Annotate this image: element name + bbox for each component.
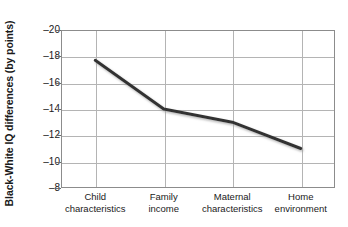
x-axis-category-label-line: environment bbox=[256, 203, 346, 215]
y-axis-tick-label: –10 bbox=[20, 156, 60, 167]
y-axis-tick-label: –12 bbox=[20, 129, 60, 140]
y-axis-tick-label: –16 bbox=[20, 77, 60, 88]
chart-figure: Black-White IQ differences (by points) –… bbox=[0, 0, 348, 227]
y-axis-tick-label: –20 bbox=[20, 24, 60, 35]
data-line-series bbox=[61, 30, 335, 188]
y-axis-tick bbox=[56, 188, 61, 189]
x-axis-category-label-line: Home bbox=[256, 191, 346, 203]
series-polyline bbox=[95, 60, 301, 148]
y-axis-tick-label: –14 bbox=[20, 103, 60, 114]
y-axis-title: Black-White IQ differences (by points) bbox=[0, 0, 18, 227]
y-axis-tick-label: –18 bbox=[20, 50, 60, 61]
x-axis-category-label: Homeenvironment bbox=[256, 191, 346, 214]
